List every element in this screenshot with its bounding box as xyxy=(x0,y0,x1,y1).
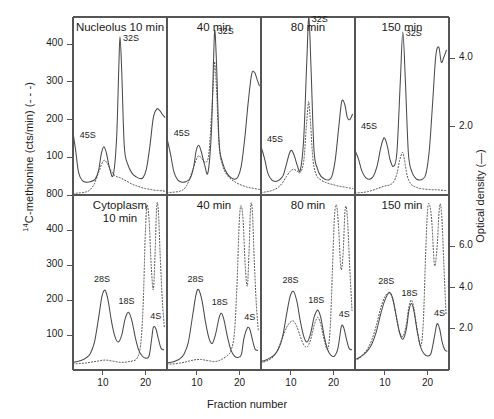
panel-title-nucleolus-80: 80 min xyxy=(261,21,355,34)
peak-label-28s-cytoplasm-80: 28S xyxy=(282,275,298,285)
peak-label-18s-cytoplasm-150: 18S xyxy=(401,288,417,298)
panel-curves-nucleolus-40 xyxy=(167,30,259,193)
panel-curves-nucleolus-150 xyxy=(355,32,447,193)
peak-label-45s-nucleolus-80: 45S xyxy=(267,134,283,144)
curve-methionine-nucleolus-150 xyxy=(355,152,447,193)
y-tick-label-bottom: 300 xyxy=(0,258,63,269)
curve-methionine-cytoplasm-40 xyxy=(167,203,258,365)
peak-label-45s-nucleolus-40: 45S xyxy=(174,128,190,138)
panel-title-line: 40 min xyxy=(167,199,261,212)
panel-title-line: 150 min xyxy=(355,21,449,34)
panel-title-line: 40 min xyxy=(167,21,261,34)
panel-curves-nucleolus-80 xyxy=(261,18,353,193)
x-tick-label: 20 xyxy=(220,377,260,388)
y-tick-label-right-bottom: 6.0 xyxy=(459,239,473,250)
figure-root: 14C-methionine (cts/min) (- - -) Optical… xyxy=(0,0,494,419)
peak-label-28s-cytoplasm-150: 28S xyxy=(378,276,394,286)
x-tick-label: 20 xyxy=(408,377,448,388)
peak-label-18s-cytoplasm-10: 18S xyxy=(119,296,135,306)
y-tick-label-bottom: 200 xyxy=(0,293,63,304)
y-tick-label-top: 400 xyxy=(0,37,63,48)
y-tick-label-bottom: 100 xyxy=(0,328,63,339)
y-tick-label-top: 100 xyxy=(0,150,63,161)
curve-optical-density-nucleolus-10 xyxy=(73,37,165,183)
y-tick-label-top: 200 xyxy=(0,113,63,124)
curve-methionine-nucleolus-10 xyxy=(73,160,165,193)
curve-optical-density-nucleolus-40 xyxy=(167,30,259,182)
curve-methionine-nucleolus-80 xyxy=(261,101,353,192)
curve-optical-density-nucleolus-80 xyxy=(261,18,352,182)
x-tick-label: 10 xyxy=(271,377,311,388)
panel-title-nucleolus-40: 40 min xyxy=(167,21,261,34)
y-tick-label-right-bottom: 2.0 xyxy=(459,322,473,333)
panel-title-line: 150 min xyxy=(355,199,449,212)
panel-title-line: 10 min xyxy=(73,212,167,225)
curve-methionine-cytoplasm-150 xyxy=(355,203,446,361)
panel-title-line: 80 min xyxy=(261,21,355,34)
panel-curves-nucleolus-10 xyxy=(73,37,165,194)
panel-title-line: 80 min xyxy=(261,199,355,212)
peak-label-32s-nucleolus-40: 32S xyxy=(218,26,234,36)
peak-label-28s-cytoplasm-40: 28S xyxy=(188,274,204,284)
peak-label-32s-nucleolus-10: 32S xyxy=(123,33,139,43)
curve-methionine-cytoplasm-80 xyxy=(261,205,352,363)
peak-label-4s-cytoplasm-10: 4S xyxy=(150,311,161,321)
peak-label-4s-cytoplasm-80: 4S xyxy=(339,309,350,319)
y-tick-label-right-bottom: 4.0 xyxy=(459,281,473,292)
panel-curves-cytoplasm-40 xyxy=(167,203,258,365)
peak-label-4s-cytoplasm-150: 4S xyxy=(434,308,445,318)
panel-title-nucleolus-10: Nucleolus 10 min xyxy=(73,21,167,34)
x-tick-label: 10 xyxy=(177,377,217,388)
peak-label-32s-nucleolus-150: 32S xyxy=(406,28,422,38)
y-tick-label-right-top: 2.0 xyxy=(459,120,473,131)
panel-curves-cytoplasm-150 xyxy=(355,203,447,361)
peak-label-32s-nucleolus-80: 32S xyxy=(312,14,328,24)
curve-optical-density-cytoplasm-150 xyxy=(355,292,447,359)
panel-title-cytoplasm-40: 40 min xyxy=(167,199,261,212)
panel-title-nucleolus-150: 150 min xyxy=(355,21,449,34)
curve-methionine-cytoplasm-10 xyxy=(73,203,164,364)
x-tick-label: 20 xyxy=(314,377,354,388)
panel-title-cytoplasm-80: 80 min xyxy=(261,199,355,212)
peak-label-18s-cytoplasm-40: 18S xyxy=(212,297,228,307)
panel-curves-cytoplasm-80 xyxy=(261,205,352,363)
peak-label-45s-nucleolus-150: 45S xyxy=(361,121,377,131)
peak-label-45s-nucleolus-10: 45S xyxy=(80,130,96,140)
panel-title-cytoplasm-10: Cytoplasm10 min xyxy=(73,199,167,225)
y-tick-label-right-top: 4.0 xyxy=(459,51,473,62)
x-tick-label: 10 xyxy=(83,377,123,388)
curve-optical-density-cytoplasm-80 xyxy=(261,291,352,361)
peak-label-28s-cytoplasm-10: 28S xyxy=(94,274,110,284)
x-tick-label: 10 xyxy=(365,377,405,388)
peak-label-18s-cytoplasm-80: 18S xyxy=(308,295,324,305)
peak-label-4s-cytoplasm-40: 4S xyxy=(244,312,255,322)
y-tick-label-top: 300 xyxy=(0,75,63,86)
panel-title-line: Nucleolus 10 min xyxy=(73,21,167,34)
panel-curves-cytoplasm-10 xyxy=(73,203,164,364)
x-tick-label: 20 xyxy=(126,377,166,388)
panel-title-line: Cytoplasm xyxy=(73,199,167,212)
y-tick-label-bottom: 400 xyxy=(0,223,63,234)
y-tick-label-divider: 800 xyxy=(0,188,63,199)
panel-title-cytoplasm-150: 150 min xyxy=(355,199,449,212)
